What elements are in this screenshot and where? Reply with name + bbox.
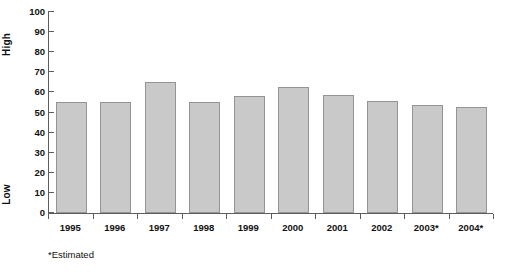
x-axis-label-1998: 1998: [181, 222, 227, 234]
bar-2002: [367, 101, 398, 213]
chart-footnote: *Estimated: [48, 249, 94, 260]
x-axis-tick-mark: [315, 214, 316, 219]
x-axis-tick-mark: [137, 214, 138, 219]
bar-1995: [56, 102, 87, 213]
y-axis-tick-label: 20: [21, 167, 45, 179]
x-axis-label-1997: 1997: [136, 222, 182, 234]
bar-2000: [278, 87, 309, 213]
y-axis-tick-label: 30: [21, 147, 45, 159]
y-axis-tick-label: 10: [21, 187, 45, 199]
x-axis-tick-mark: [404, 214, 405, 219]
bar-1998: [189, 102, 220, 213]
x-axis-label-1995: 1995: [47, 222, 93, 234]
bar-2004-est: [456, 107, 487, 213]
y-axis-tick-label: 60: [21, 86, 45, 98]
x-axis-label-2003-est: 2003*: [403, 222, 449, 234]
bar-1996: [100, 102, 131, 213]
bar-2003-est: [412, 105, 443, 213]
bar-1999: [234, 96, 265, 213]
y-axis-tick-label: 70: [21, 66, 45, 78]
x-axis-tick-mark: [271, 214, 272, 219]
plot-area: [49, 12, 494, 213]
x-axis-label-1999: 1999: [225, 222, 271, 234]
x-axis-label-2000: 2000: [270, 222, 316, 234]
y-axis-tick-label: 40: [21, 127, 45, 139]
x-axis-tick-mark: [493, 214, 494, 219]
x-axis-label-2001: 2001: [314, 222, 360, 234]
x-axis-tick-mark: [360, 214, 361, 219]
bar-chart: High Low 1009080706050403020100 19951996…: [0, 0, 507, 278]
y-axis-tick-label: 0: [21, 207, 45, 219]
x-axis-tick-mark: [226, 214, 227, 219]
bar-1997: [145, 82, 176, 213]
x-axis-tick-mark: [48, 214, 49, 219]
y-axis-tick-label: 80: [21, 46, 45, 58]
x-axis-label-2002: 2002: [359, 222, 405, 234]
x-axis-tick-mark: [93, 214, 94, 219]
y-axis-caption-low: Low: [1, 179, 12, 211]
y-axis-tick-label: 90: [21, 26, 45, 38]
y-axis-tick-label: 50: [21, 107, 45, 119]
x-axis-label-1996: 1996: [92, 222, 138, 234]
y-axis-tick-label: 100: [21, 6, 45, 18]
x-axis-tick-mark: [449, 214, 450, 219]
bar-2001: [323, 95, 354, 213]
x-axis-tick-mark: [182, 214, 183, 219]
x-axis-label-2004-est: 2004*: [448, 222, 494, 234]
y-axis-caption-high: High: [1, 28, 12, 62]
